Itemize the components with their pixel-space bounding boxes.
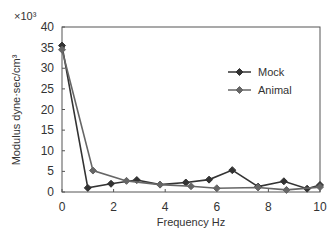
y-multiplier-label: ×10³ xyxy=(14,10,37,22)
legend-label: Animal xyxy=(258,84,292,96)
legend-item-mock: Mock xyxy=(228,66,285,78)
y-tick-label: 25 xyxy=(41,82,55,96)
y-tick-label: 15 xyxy=(41,123,55,137)
legend-label: Mock xyxy=(258,66,285,78)
legend: MockAnimal xyxy=(228,66,292,96)
modulus-frequency-chart: 0510152025303540 0246810 MockAnimal ×10³… xyxy=(0,0,335,241)
y-tick-label: 0 xyxy=(47,185,54,199)
x-axis-label: Frequency Hz xyxy=(157,216,225,228)
y-tick-label: 20 xyxy=(41,103,55,117)
x-tick-label: 4 xyxy=(162,200,169,214)
x-tick-label: 10 xyxy=(313,200,327,214)
y-axis-label: Modulus dyne·sec/cm³ xyxy=(10,54,22,165)
x-tick-label: 8 xyxy=(265,200,272,214)
y-tick-label: 40 xyxy=(41,20,55,34)
y-tick-label: 10 xyxy=(41,144,55,158)
series-mock xyxy=(59,42,324,192)
y-tick-label: 35 xyxy=(41,41,55,55)
y-tick-label: 5 xyxy=(47,164,54,178)
x-tick-label: 6 xyxy=(213,200,220,214)
y-tick-label: 30 xyxy=(41,61,55,75)
plot-frame xyxy=(62,27,320,192)
x-tick-label: 0 xyxy=(59,200,66,214)
data-series xyxy=(59,42,324,193)
legend-item-animal: Animal xyxy=(228,84,292,96)
x-tick-label: 2 xyxy=(110,200,117,214)
